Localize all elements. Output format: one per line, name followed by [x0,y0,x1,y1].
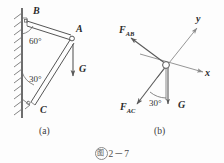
axis-x-line [140,54,203,72]
point-label-A: A [75,23,83,34]
panel-a-group: B A C 60° 30° G [14,5,87,118]
panel-label-a: (a) [39,126,50,137]
caption-badge-icon: 图 [95,147,108,160]
caption-number: 2－7 [109,149,130,159]
figure-container: B A C 60° 30° G [0,0,224,163]
force-label-G: G [178,99,186,110]
load-label-G: G [79,63,87,74]
force-vector-FAB-arrow [131,38,166,64]
angle-label-60: 60° [29,36,42,46]
figure-drawing: B A C 60° 30° G [0,0,224,163]
axis-label-x: x [204,67,210,78]
panel-b-group: FAB FAC G 30° y x [118,13,210,114]
panel-label-b: (b) [154,126,165,137]
figure-caption: 图2－7 [0,146,224,160]
angle-label-30-fbd: 30° [149,98,162,108]
angle-label-30: 30° [29,74,42,84]
point-label-C: C [40,104,47,115]
force-label-FAB: FAB [118,24,135,37]
member-CA [31,40,74,105]
point-label-B: B [32,5,40,16]
joint-A-marker [70,36,75,41]
joint-A-circle [163,62,170,69]
pin-joint-C [22,99,30,109]
force-label-FAC: FAC [119,101,136,114]
wall-hatching [14,13,22,115]
axis-label-y: y [195,13,201,24]
